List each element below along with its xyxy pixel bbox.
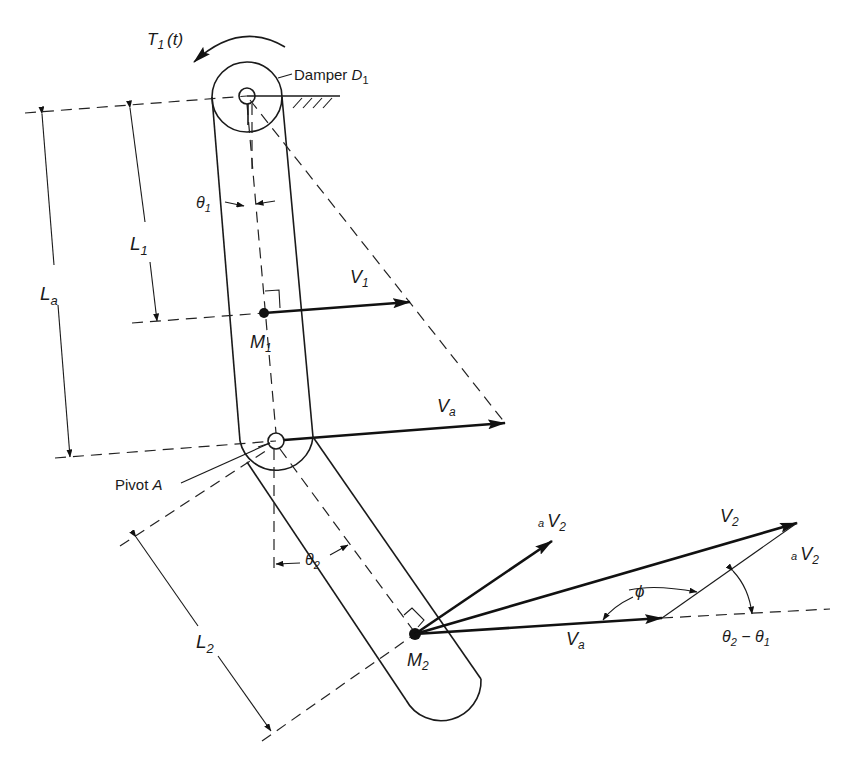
phi-angle: ϕ (603, 582, 697, 620)
velocity-aV2-triangle-side: aV2 (662, 523, 819, 618)
damper-label: Damper D1 (278, 66, 369, 86)
torque-indicator: T1(t) (147, 30, 285, 62)
velocity-Va-upper: Va (284, 396, 505, 440)
svg-text:L2: L2 (196, 631, 215, 656)
velocity-V1: V1 (264, 267, 410, 313)
svg-text:L1: L1 (130, 233, 148, 258)
svg-text:θ2: θ2 (305, 551, 320, 571)
svg-text:V1: V1 (350, 267, 369, 290)
velocity-V2: V2 (415, 506, 797, 634)
damper-circle (212, 62, 282, 132)
lower-link (247, 433, 481, 721)
svg-text:V2: V2 (720, 506, 739, 529)
ground-hatch-icon (247, 96, 340, 108)
svg-text:θ1: θ1 (196, 194, 211, 214)
svg-text:ϕ: ϕ (635, 582, 644, 601)
mass-M1: M1 (250, 290, 280, 355)
La-dimension: La (40, 114, 276, 458)
svg-text:aV2: aV2 (791, 544, 819, 567)
pivot-A-label: Pivot A (115, 443, 270, 493)
svg-text:Pivot A: Pivot A (115, 476, 163, 493)
theta1-annotation: θ1 (196, 194, 275, 214)
svg-text:La: La (40, 283, 58, 308)
svg-text:aV2: aV2 (538, 511, 566, 534)
svg-text:M1: M1 (250, 332, 272, 355)
svg-text:θ2 − θ1: θ2 − θ1 (722, 628, 770, 648)
theta2-annotation: θ2 (276, 545, 348, 571)
velocity-construction-line (250, 100, 505, 423)
svg-text:M2: M2 (407, 650, 429, 673)
two-link-diagram: T1(t) Damper D1 θ1 (0, 0, 853, 766)
torque-label: T1(t) (147, 30, 183, 52)
svg-text:Va: Va (437, 396, 456, 419)
svg-text:Va: Va (566, 629, 585, 652)
svg-text:Damper D1: Damper D1 (294, 66, 369, 86)
torque-arrow-icon (194, 36, 285, 62)
L1-dimension: L1 (130, 108, 264, 323)
upper-link (212, 62, 313, 470)
theta-difference-angle: θ2 − θ1 (722, 571, 770, 648)
